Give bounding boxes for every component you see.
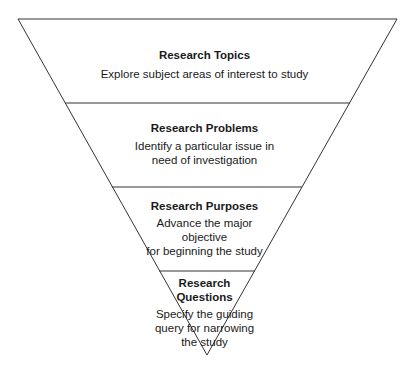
stage-title: Research Purposes: [0, 199, 409, 213]
stage-description: query for narrowing: [0, 321, 409, 335]
stage-problems: Research Problems Identify a particular …: [0, 121, 409, 167]
stage-questions: Research Questions Specify the guiding q…: [0, 276, 409, 349]
stage-description: for beginning the study: [0, 244, 409, 258]
stage-description: Specify the guiding: [0, 307, 409, 321]
stage-title: Questions: [0, 290, 409, 304]
stage-topics: Research Topics Explore subject areas of…: [0, 48, 409, 81]
stage-description: objective: [0, 230, 409, 244]
stage-description: Advance the major: [0, 216, 409, 230]
stage-description: Identify a particular issue in: [0, 139, 409, 153]
stage-description: Explore subject areas of interest to stu…: [0, 67, 409, 81]
stage-description: need of investigation: [0, 153, 409, 167]
stage-title: Research Topics: [0, 48, 409, 62]
stage-title: Research: [0, 276, 409, 290]
stage-title: Research Problems: [0, 121, 409, 135]
stage-description: the study: [0, 335, 409, 349]
stage-purposes: Research Purposes Advance the major obje…: [0, 199, 409, 258]
